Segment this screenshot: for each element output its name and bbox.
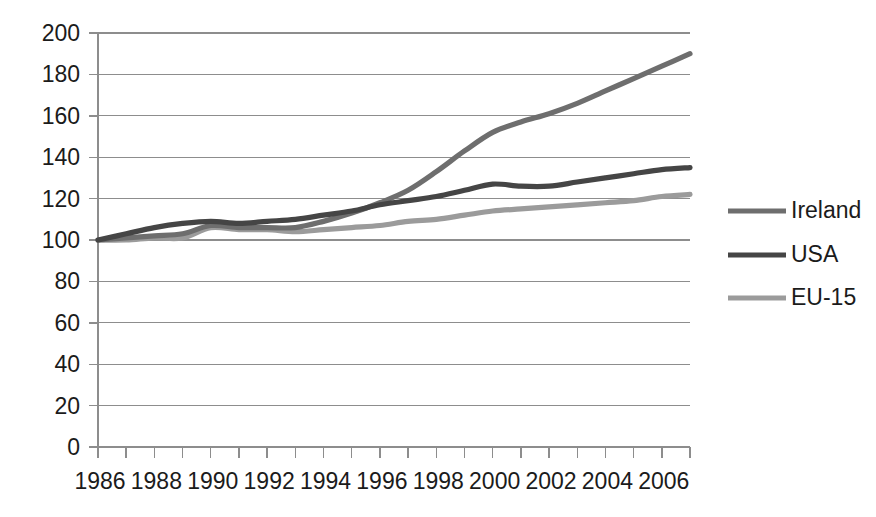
x-tick-label-1988: 1988 — [131, 468, 182, 494]
chart-canvas: 020406080100120140160180200 198619881990… — [0, 0, 876, 517]
y-tick-label-0: 0 — [67, 434, 80, 460]
y-tick-label-60: 60 — [54, 310, 80, 336]
gridlines — [98, 33, 690, 406]
series-line-ireland — [98, 54, 690, 240]
x-tick-label-1986: 1986 — [74, 468, 125, 494]
x-tick-label-2006: 2006 — [638, 468, 689, 494]
x-tick-label-2002: 2002 — [525, 468, 576, 494]
y-tick-label-40: 40 — [54, 351, 80, 377]
line-chart-figure: 020406080100120140160180200 198619881990… — [0, 0, 876, 517]
x-axis-tick-marks — [98, 447, 690, 458]
x-tick-label-1994: 1994 — [300, 468, 351, 494]
x-tick-label-2000: 2000 — [469, 468, 520, 494]
y-tick-label-140: 140 — [42, 144, 80, 170]
x-tick-label-2004: 2004 — [582, 468, 633, 494]
x-tick-label-1992: 1992 — [244, 468, 295, 494]
y-tick-label-80: 80 — [54, 268, 80, 294]
y-axis-tick-labels: 020406080100120140160180200 — [42, 20, 80, 460]
x-tick-label-1996: 1996 — [356, 468, 407, 494]
legend-label-eu-15: EU-15 — [791, 284, 856, 310]
legend-label-ireland: Ireland — [791, 197, 861, 223]
y-tick-label-200: 200 — [42, 20, 80, 46]
y-tick-label-20: 20 — [54, 393, 80, 419]
y-tick-label-180: 180 — [42, 61, 80, 87]
x-axis-tick-labels: 1986198819901992199419961998200020022004… — [74, 468, 689, 494]
data-series-lines — [98, 54, 690, 240]
x-tick-label-1998: 1998 — [413, 468, 464, 494]
chart-legend: IrelandUSAEU-15 — [728, 197, 861, 310]
y-tick-label-100: 100 — [42, 227, 80, 253]
legend-label-usa: USA — [791, 241, 839, 267]
y-tick-label-120: 120 — [42, 186, 80, 212]
x-tick-label-1990: 1990 — [187, 468, 238, 494]
y-tick-label-160: 160 — [42, 103, 80, 129]
